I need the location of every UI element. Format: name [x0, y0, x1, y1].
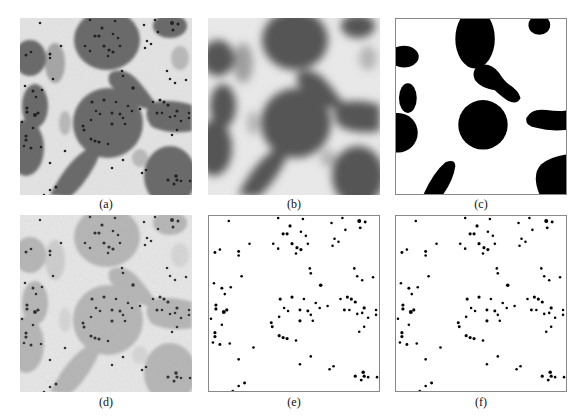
panel-b-label: (b) [208, 197, 380, 212]
panel-f-label: (f) [395, 395, 567, 410]
panel-a-original-micrograph [20, 18, 192, 195]
panel-c-binary-segmentation [395, 18, 567, 195]
panel-d-background-removed [20, 215, 192, 392]
panel-c-label: (c) [395, 197, 567, 212]
panel-b-blurred-micrograph [208, 18, 380, 195]
panel-e-detected-particles [208, 215, 380, 392]
panel-d-label: (d) [20, 395, 192, 410]
panel-e-label: (e) [208, 395, 380, 410]
panel-f-filtered-particles [395, 215, 567, 392]
panel-a-label: (a) [20, 197, 192, 212]
